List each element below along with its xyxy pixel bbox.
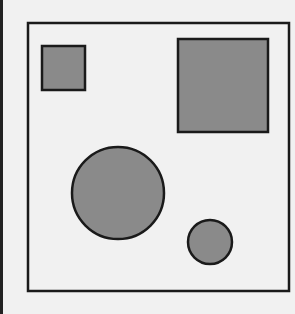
- small-circle: [188, 220, 232, 264]
- large-square: [178, 39, 268, 132]
- small-square: [42, 46, 85, 90]
- large-circle: [72, 147, 164, 239]
- shapes-diagram: [0, 0, 295, 314]
